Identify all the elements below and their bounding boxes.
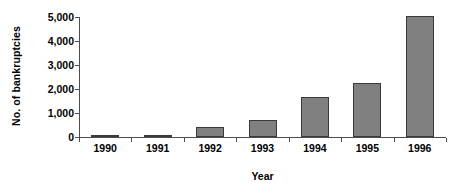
x-axis-tick-label: 1993 xyxy=(236,142,288,155)
bar xyxy=(353,83,381,137)
bar-chart: No. of bankruptcies 01,0002,0003,0004,00… xyxy=(0,0,456,194)
x-axis-tick-label: 1995 xyxy=(341,142,393,155)
bar xyxy=(249,120,277,137)
x-axis-tick-labels: 1990199119921993199419951996 xyxy=(79,142,446,156)
x-axis-tick-label: 1994 xyxy=(289,142,341,155)
x-axis-tick-label: 1996 xyxy=(394,142,446,155)
x-axis-tick-label: 1990 xyxy=(79,142,131,155)
bar xyxy=(406,16,434,137)
plot-area xyxy=(79,17,446,137)
bar xyxy=(91,135,119,137)
y-axis-tick-label: 1,000 xyxy=(22,107,74,119)
y-axis-tick-label: 4,000 xyxy=(22,35,74,47)
y-axis-tick-labels: 01,0002,0003,0004,0005,000 xyxy=(22,11,74,137)
y-axis-tick-label: 5,000 xyxy=(22,11,74,23)
bars-layer xyxy=(79,17,446,138)
x-axis-tick-label: 1992 xyxy=(184,142,236,155)
bar xyxy=(144,135,172,137)
x-axis-tick-mark xyxy=(446,138,447,142)
bar xyxy=(301,97,329,137)
y-axis-tick-label: 0 xyxy=(22,131,74,143)
bar xyxy=(196,127,224,137)
y-axis-tick-label: 2,000 xyxy=(22,83,74,95)
x-axis-tick-label: 1991 xyxy=(131,142,183,155)
y-axis-tick-label: 3,000 xyxy=(22,59,74,71)
x-axis-title: Year xyxy=(79,170,446,182)
